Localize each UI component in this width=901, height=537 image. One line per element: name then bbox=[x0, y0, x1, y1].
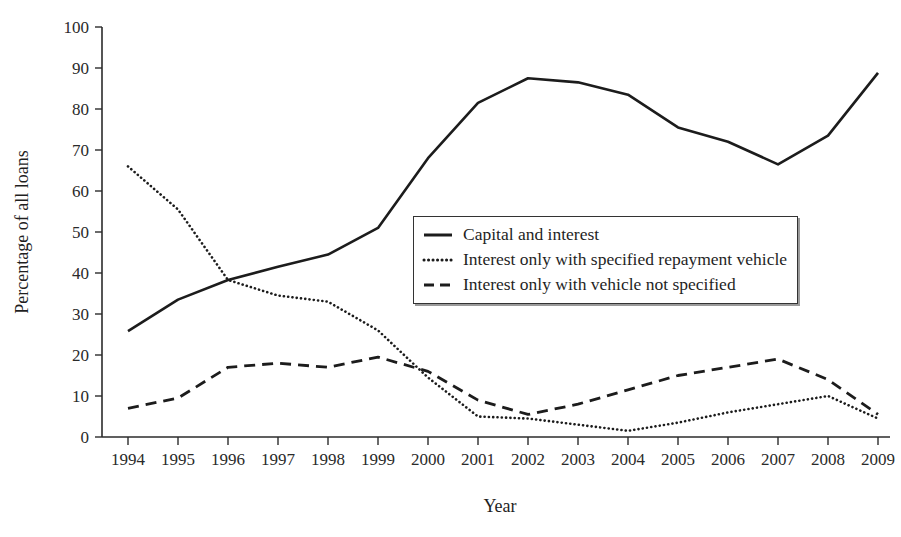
x-axis-title: Year bbox=[483, 496, 516, 516]
y-tick-label: 30 bbox=[72, 305, 89, 324]
y-tick-label: 90 bbox=[72, 59, 89, 78]
x-tick-label: 2004 bbox=[611, 450, 646, 469]
x-tick-label: 2009 bbox=[861, 450, 895, 469]
x-tick-label: 2002 bbox=[511, 450, 545, 469]
legend-swatch-solid bbox=[422, 228, 456, 242]
y-tick-label: 100 bbox=[64, 18, 90, 37]
x-tick-label: 1995 bbox=[161, 450, 195, 469]
y-tick-label: 0 bbox=[81, 428, 90, 447]
x-tick-label: 2006 bbox=[711, 450, 745, 469]
x-tick-label: 2008 bbox=[811, 450, 845, 469]
x-tick-label: 2000 bbox=[411, 450, 445, 469]
y-tick-label: 70 bbox=[72, 141, 89, 160]
x-tick-label: 2001 bbox=[461, 450, 495, 469]
y-tick-label: 10 bbox=[72, 387, 89, 406]
y-tick-label: 20 bbox=[72, 346, 89, 365]
y-tick-label: 40 bbox=[72, 264, 89, 283]
x-tick-label: 1997 bbox=[261, 450, 296, 469]
x-tick-label: 1999 bbox=[361, 450, 395, 469]
x-tick-label: 1996 bbox=[211, 450, 245, 469]
legend-item: Interest only with specified repayment v… bbox=[422, 247, 787, 272]
legend-item: Capital and interest bbox=[422, 222, 787, 247]
legend-swatch-dotted bbox=[422, 253, 456, 267]
chart-legend: Capital and interest Interest only with … bbox=[413, 216, 798, 304]
y-tick-label: 80 bbox=[72, 100, 89, 119]
x-tick-label: 1994 bbox=[111, 450, 146, 469]
legend-item: Interest only with vehicle not specified bbox=[422, 272, 787, 297]
x-tick-label: 2003 bbox=[561, 450, 595, 469]
line-chart: 0102030405060708090100199419951996199719… bbox=[0, 0, 901, 537]
x-tick-label: 2005 bbox=[661, 450, 695, 469]
x-tick-label: 1998 bbox=[311, 450, 345, 469]
legend-label-interest-only-specified-vehicle: Interest only with specified repayment v… bbox=[463, 251, 787, 269]
y-tick-label: 50 bbox=[72, 223, 89, 242]
legend-swatch-dashed bbox=[422, 278, 456, 292]
y-axis-title: Percentage of all loans bbox=[12, 150, 32, 313]
legend-label-capital-and-interest: Capital and interest bbox=[463, 226, 599, 244]
y-tick-label: 60 bbox=[72, 182, 89, 201]
legend-label-interest-only-vehicle-not-specified: Interest only with vehicle not specified bbox=[463, 276, 736, 294]
x-tick-label: 2007 bbox=[761, 450, 796, 469]
